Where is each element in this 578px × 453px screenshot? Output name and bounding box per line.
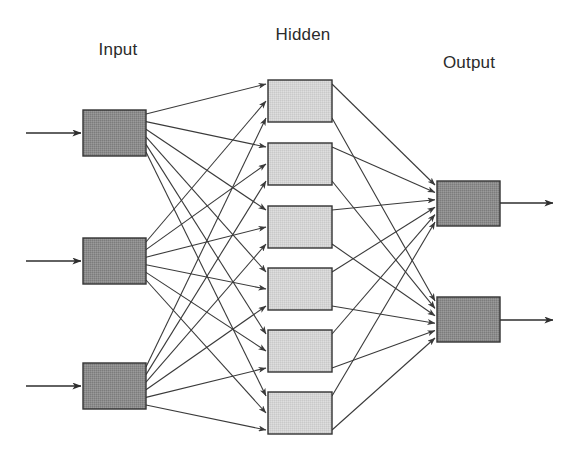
node-hidden-6[interactable] (268, 392, 332, 434)
node-hidden-1[interactable] (268, 80, 332, 122)
edge-h5-to-o2 (332, 331, 435, 368)
edge-h2-to-o2 (332, 181, 435, 308)
edge-i2-to-h5 (146, 272, 266, 351)
edge-h4-to-o1 (332, 207, 435, 272)
node-output-2[interactable] (437, 297, 500, 342)
node-output-1[interactable] (437, 181, 500, 226)
edge-h3-to-o2 (332, 244, 435, 316)
network-nodes (83, 80, 500, 434)
edge-i2-to-h1 (146, 101, 266, 242)
edge-i3-to-h1 (146, 118, 266, 367)
layer-label-input: Input (99, 40, 138, 59)
output-feed-arrows (500, 203, 553, 320)
node-hidden-3[interactable] (268, 206, 332, 248)
edge-i1-to-h2 (146, 122, 266, 147)
edge-i1-to-h1 (146, 84, 266, 114)
edges-hidden-to-output (332, 84, 435, 430)
network-canvas: Input Hidden Output (0, 0, 578, 453)
edge-i1-to-h4 (146, 137, 266, 272)
edges-input-to-hidden (146, 84, 266, 430)
node-hidden-5[interactable] (268, 330, 332, 372)
edge-i1-to-h6 (146, 152, 266, 396)
edge-i3-to-h2 (146, 181, 266, 375)
edge-i3-to-h3 (146, 244, 266, 382)
node-input-3[interactable] (83, 363, 146, 409)
node-input-2[interactable] (83, 238, 146, 284)
node-hidden-2[interactable] (268, 143, 332, 185)
edge-i2-to-h2 (146, 164, 266, 250)
neural-network-diagram: Input Hidden Output (0, 0, 578, 453)
edge-i3-to-h4 (146, 306, 266, 390)
layer-label-output: Output (443, 53, 495, 72)
node-hidden-4[interactable] (268, 268, 332, 310)
layer-label-hidden: Hidden (275, 25, 330, 44)
edge-h6-to-o2 (332, 338, 435, 430)
input-feed-arrows (26, 133, 81, 386)
node-input-1[interactable] (83, 110, 146, 156)
edge-i3-to-h6 (146, 405, 266, 430)
edge-i1-to-h5 (146, 144, 266, 334)
edge-i1-to-h3 (146, 129, 266, 210)
